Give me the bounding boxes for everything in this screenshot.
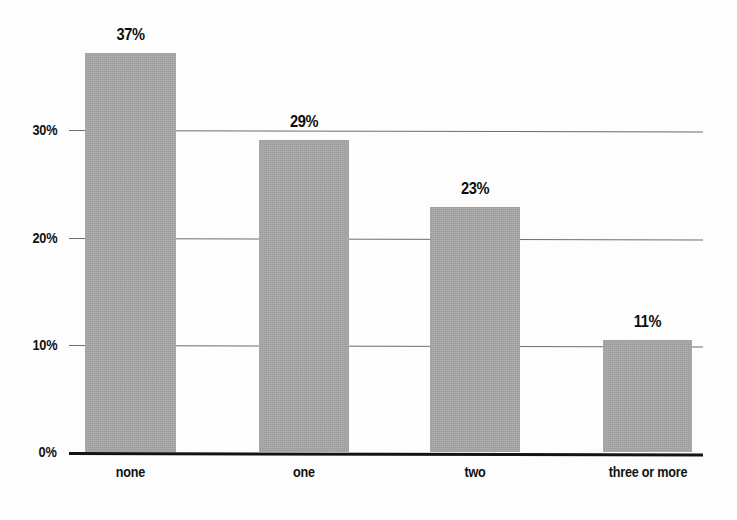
y-tick-label-30: 30%	[32, 122, 57, 138]
y-tick-label-10: 10%	[32, 337, 57, 353]
x-tick-label-three-or-more: three or more	[600, 464, 696, 480]
bar-two[interactable]	[430, 207, 520, 452]
bar-value-none: 37%	[91, 25, 169, 45]
bar-one[interactable]	[259, 140, 349, 452]
bar-value-one: 29%	[265, 112, 342, 132]
x-tick-label-one: one	[265, 464, 343, 480]
bar-none[interactable]	[85, 53, 176, 452]
x-tick-label-none: none	[91, 464, 170, 480]
y-tick-label-0: 0%	[39, 444, 57, 460]
bar-three-or-more[interactable]	[603, 340, 692, 452]
bar-value-two: 23%	[436, 179, 513, 199]
plot-area: 30% 20% 10% 0% 37% 29% 23% 11% none one …	[0, 0, 737, 520]
y-tick-label-20: 20%	[32, 230, 57, 246]
x-tick-label-two: two	[436, 464, 514, 480]
x-axis-line	[69, 452, 703, 456]
bar-value-three-or-more: 11%	[609, 312, 686, 332]
bar-chart: 30% 20% 10% 0% 37% 29% 23% 11% none one …	[0, 0, 737, 520]
